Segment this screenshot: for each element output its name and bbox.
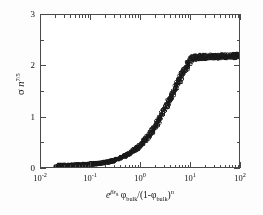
y-major-tick-right <box>234 117 240 118</box>
y-major-tick <box>40 168 46 169</box>
x-minor-tick-top <box>70 14 71 18</box>
x-minor-tick-top <box>138 14 139 18</box>
x-title-phi-bulk: φbulk <box>121 190 138 200</box>
y-major-tick <box>40 14 46 15</box>
x-minor-tick <box>205 165 206 169</box>
y-major-tick-right <box>234 168 240 169</box>
x-minor-tick <box>120 165 121 169</box>
x-major-tick <box>140 162 141 168</box>
data-points-canvas <box>41 15 239 167</box>
x-minor-tick-top <box>75 14 76 18</box>
x-minor-tick-top <box>79 14 80 18</box>
x-minor-tick-top <box>182 14 183 18</box>
x-minor-tick-top <box>175 14 176 18</box>
x-minor-tick-top <box>214 14 215 18</box>
x-minor-tick <box>229 165 230 169</box>
y-minor-tick-right <box>237 142 241 143</box>
x-minor-tick <box>88 165 89 169</box>
x-minor-tick <box>135 165 136 169</box>
x-minor-tick <box>55 165 56 169</box>
x-minor-tick <box>114 165 115 169</box>
x-tick-label: 10-2 <box>33 172 47 182</box>
y-major-tick <box>40 65 46 66</box>
x-title-n-exponent: n <box>171 188 174 195</box>
x-minor-tick <box>170 165 171 169</box>
x-title-exponent: βεs <box>110 188 118 195</box>
x-major-tick <box>190 162 191 168</box>
x-axis-title: eβεs φbulk/(1-φbulk)n <box>40 188 240 202</box>
x-minor-tick-top <box>185 14 186 18</box>
x-minor-tick-top <box>114 14 115 18</box>
plot-area <box>40 14 240 168</box>
y-axis-title: σ n7/5 <box>14 54 27 114</box>
x-minor-tick-top <box>82 14 83 18</box>
x-major-tick-top <box>190 14 191 20</box>
x-minor-tick-top <box>132 14 133 18</box>
x-minor-tick <box>138 165 139 169</box>
x-minor-tick-top <box>170 14 171 18</box>
x-title-denominator: /(1- <box>137 190 151 200</box>
x-minor-tick <box>185 165 186 169</box>
x-minor-tick <box>220 165 221 169</box>
x-minor-tick <box>175 165 176 169</box>
y-major-tick <box>40 117 46 118</box>
x-minor-tick <box>214 165 215 169</box>
x-major-tick-top <box>140 14 141 20</box>
x-minor-tick <box>164 165 165 169</box>
x-minor-tick-top <box>129 14 130 18</box>
y-title-exponent: 7/5 <box>14 73 21 81</box>
x-minor-tick-top <box>229 14 230 18</box>
x-major-tick-top <box>90 14 91 20</box>
y-minor-tick <box>40 40 44 41</box>
x-minor-tick-top <box>225 14 226 18</box>
x-minor-tick-top <box>120 14 121 18</box>
x-minor-tick-top <box>188 14 189 18</box>
x-minor-tick <box>82 165 83 169</box>
x-minor-tick <box>64 165 65 169</box>
x-minor-tick <box>182 165 183 169</box>
x-minor-tick <box>188 165 189 169</box>
x-minor-tick <box>179 165 180 169</box>
x-minor-tick-top <box>55 14 56 18</box>
x-minor-tick <box>105 165 106 169</box>
x-minor-tick-top <box>164 14 165 18</box>
x-minor-tick <box>85 165 86 169</box>
y-major-tick-right <box>234 65 240 66</box>
figure-scatter-plot: 10-210-1100101102 0123 eβεs φbulk/(1-φbu… <box>0 0 263 215</box>
x-minor-tick-top <box>105 14 106 18</box>
y-minor-tick <box>40 91 44 92</box>
x-minor-tick-top <box>135 14 136 18</box>
y-title-sigma: σ <box>15 89 26 95</box>
y-tick-label: 0 <box>18 164 35 173</box>
y-title-n: n <box>15 82 26 87</box>
x-minor-tick-top <box>125 14 126 18</box>
x-major-tick <box>90 162 91 168</box>
x-tick-label: 102 <box>234 172 246 182</box>
x-minor-tick <box>70 165 71 169</box>
x-tick-label: 101 <box>184 172 196 182</box>
y-major-tick-right <box>234 14 240 15</box>
x-minor-tick <box>79 165 80 169</box>
x-major-tick-top <box>240 14 241 20</box>
y-minor-tick-right <box>237 91 241 92</box>
x-tick-label: 100 <box>134 172 146 182</box>
x-minor-tick-top <box>220 14 221 18</box>
y-minor-tick-right <box>237 40 241 41</box>
x-minor-tick <box>125 165 126 169</box>
x-minor-tick <box>129 165 130 169</box>
x-minor-tick-top <box>205 14 206 18</box>
x-minor-tick <box>75 165 76 169</box>
x-minor-tick <box>225 165 226 169</box>
x-major-tick <box>240 162 241 168</box>
x-minor-tick-top <box>179 14 180 18</box>
y-minor-tick <box>40 142 44 143</box>
y-tick-label: 3 <box>18 10 35 19</box>
x-minor-tick-top <box>64 14 65 18</box>
x-minor-tick-top <box>88 14 89 18</box>
x-minor-tick-top <box>85 14 86 18</box>
x-minor-tick-top <box>155 14 156 18</box>
x-minor-tick <box>132 165 133 169</box>
x-minor-tick <box>155 165 156 169</box>
x-tick-label: 10-1 <box>83 172 97 182</box>
